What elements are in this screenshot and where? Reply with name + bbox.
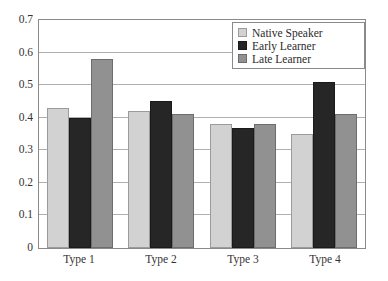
legend-swatch-icon (238, 41, 247, 50)
bar (47, 108, 69, 248)
x-axis-tick-label: Type 1 (38, 252, 120, 272)
x-axis: Type 1Type 2Type 3Type 4 (38, 252, 366, 272)
legend: Native SpeakerEarly LearnerLate Learner (232, 22, 365, 69)
y-axis-tick-label: 0.4 (1, 112, 33, 123)
y-axis-tick-label: 0.2 (1, 177, 33, 188)
bar (69, 118, 91, 248)
x-axis-tick-label: Type 4 (284, 252, 366, 272)
legend-item[interactable]: Late Learner (238, 52, 360, 65)
bar-chart: 0.70.60.50.40.30.20.10 Type 1Type 2Type … (0, 0, 388, 281)
bar (313, 82, 335, 248)
y-axis-tick-label: 0 (1, 242, 33, 253)
y-axis-tick-label: 0.1 (1, 209, 33, 220)
bar-group (39, 20, 121, 248)
y-axis-tick-label: 0.3 (1, 144, 33, 155)
legend-item-label: Late Learner (252, 53, 311, 65)
legend-item[interactable]: Native Speaker (238, 26, 360, 39)
bar (128, 111, 150, 248)
y-axis-tick-label: 0.6 (1, 47, 33, 58)
x-axis-tick-label: Type 2 (120, 252, 202, 272)
bar (172, 114, 194, 248)
bar (210, 124, 232, 248)
legend-swatch-icon (238, 54, 247, 63)
bar-group (121, 20, 203, 248)
bar (335, 114, 357, 248)
bar (254, 124, 276, 248)
x-axis-tick-label: Type 3 (202, 252, 284, 272)
legend-swatch-icon (238, 28, 247, 37)
legend-item-label: Native Speaker (252, 27, 323, 39)
y-axis-tick-label: 0.5 (1, 79, 33, 90)
bar (232, 128, 254, 249)
y-axis-tick-label: 0.7 (1, 14, 33, 25)
bar (150, 101, 172, 248)
legend-item[interactable]: Early Learner (238, 39, 360, 52)
bar (291, 134, 313, 248)
bar (91, 59, 113, 248)
y-axis: 0.70.60.50.40.30.20.10 (0, 0, 38, 281)
legend-item-label: Early Learner (252, 40, 316, 52)
